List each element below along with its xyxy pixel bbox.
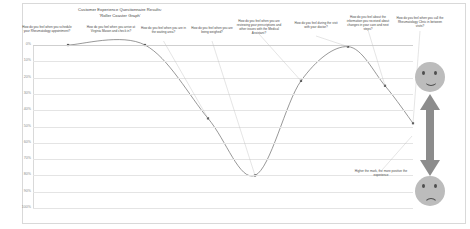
- smiley-happy-icon: [415, 62, 445, 92]
- data-point-marker[interactable]: [207, 117, 209, 119]
- callout-label-7: How do you feel when you call the Rheuma…: [396, 17, 444, 29]
- gridline: [33, 143, 413, 144]
- smiley-sad-icon: [415, 176, 445, 206]
- double-headed-vertical-arrow-icon: [419, 94, 441, 176]
- data-point-marker[interactable]: [384, 85, 386, 87]
- y-axis-tick-label: 0%: [13, 43, 31, 47]
- callout-label-3: How do you feel when you are being weigh…: [190, 27, 234, 35]
- y-axis: 0%10%20%30%40%50%60%70%80%90%100%: [13, 45, 31, 208]
- gridline: [33, 94, 413, 95]
- y-axis-tick-label: 70%: [13, 157, 31, 161]
- gridline: [33, 110, 413, 111]
- y-axis-tick-label: 50%: [13, 125, 31, 129]
- gridline: [33, 208, 413, 209]
- callout-label-2: How do you feel when you are in the wait…: [140, 27, 187, 35]
- y-axis-tick-label: 20%: [13, 76, 31, 80]
- y-axis-tick-label: 80%: [13, 173, 31, 177]
- callout-label-6: How do you feel about the information yo…: [345, 16, 391, 32]
- callout-label-1: How do you feel when you arrive at Virgi…: [86, 26, 136, 34]
- y-axis-tick-label: 40%: [13, 108, 31, 112]
- data-point-marker[interactable]: [412, 122, 414, 124]
- callout-label-4: How do you feel when you are reviewing y…: [233, 20, 285, 36]
- y-axis-tick-label: 90%: [13, 190, 31, 194]
- caption-note: Higher the mark, the more positive the e…: [352, 169, 410, 177]
- chart-canvas: Customer Experience Questionnaire Result…: [0, 0, 470, 229]
- data-point-marker[interactable]: [300, 80, 302, 82]
- page-title: Customer Experience Questionnaire Result…: [50, 7, 190, 18]
- y-axis-tick-label: 100%: [13, 206, 31, 210]
- gridline: [33, 192, 413, 193]
- series-line: [68, 40, 413, 176]
- callout-label-0: How do you feel when you schedule your R…: [22, 26, 72, 34]
- callout-label-5: How do you feel during the visit with yo…: [292, 22, 340, 30]
- y-axis-tick-label: 30%: [13, 92, 31, 96]
- plot-area: [33, 45, 413, 208]
- gridline: [33, 78, 413, 79]
- gridline: [33, 159, 413, 160]
- gridline: [33, 61, 413, 62]
- y-axis-tick-label: 60%: [13, 141, 31, 145]
- chart-title-line-2: 'Roller Coaster Graph': [50, 13, 190, 19]
- gridline: [33, 127, 413, 128]
- y-axis-tick-label: 10%: [13, 59, 31, 63]
- gridline: [33, 45, 413, 46]
